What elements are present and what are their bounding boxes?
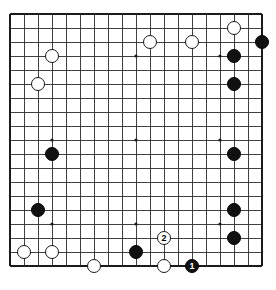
black-stone-move-1[interactable]: 1 [185, 259, 199, 273]
star-point-5 [218, 138, 221, 141]
white-stone-k17[interactable] [143, 35, 157, 49]
star-point-4 [134, 138, 137, 141]
white-stone-d16[interactable] [45, 49, 59, 63]
white-stone-c14[interactable] [31, 77, 45, 91]
go-diagram-root: 21 [0, 0, 276, 290]
black-stone-q3[interactable] [227, 231, 241, 245]
black-stone-s17[interactable] [255, 35, 269, 49]
black-stone-c5[interactable] [31, 203, 45, 217]
star-point-1 [134, 54, 137, 57]
black-stone-q9[interactable] [227, 147, 241, 161]
star-point-8 [218, 222, 221, 225]
black-stone-q14[interactable] [227, 77, 241, 91]
star-point-6 [50, 222, 53, 225]
black-stone-q16[interactable] [227, 49, 241, 63]
white-stone-move-2-label: 2 [158, 232, 170, 244]
white-stone-move-2[interactable]: 2 [157, 231, 171, 245]
white-stone-d2[interactable] [45, 245, 59, 259]
white-stone-n17[interactable] [185, 35, 199, 49]
star-point-7 [134, 222, 137, 225]
black-stone-q5[interactable] [227, 203, 241, 217]
white-stone-q18[interactable] [227, 21, 241, 35]
go-board[interactable]: 21 [0, 0, 276, 290]
star-point-2 [218, 54, 221, 57]
star-point-3 [50, 138, 53, 141]
black-stone-move-1-label: 1 [186, 260, 198, 272]
white-stone-m1[interactable] [157, 259, 171, 273]
black-stone-k2[interactable] [129, 245, 143, 259]
black-stone-d9[interactable] [45, 147, 59, 161]
white-stone-b2[interactable] [17, 245, 31, 259]
white-stone-g1[interactable] [87, 259, 101, 273]
